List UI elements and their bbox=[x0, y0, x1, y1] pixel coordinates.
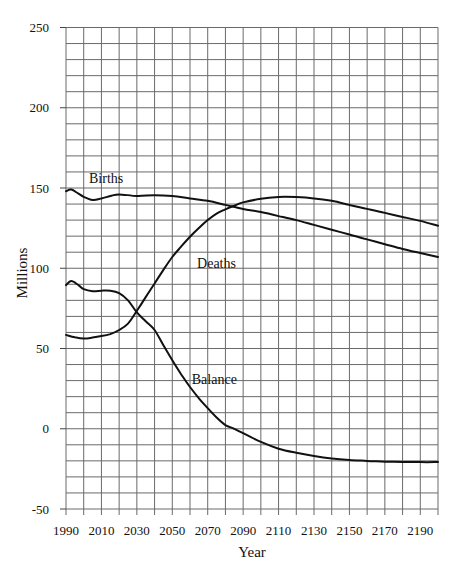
x-tick-label: 2110 bbox=[266, 523, 292, 538]
x-tick-label: 2070 bbox=[195, 523, 221, 538]
line-chart: -50050100150200250 199020102030205020702… bbox=[0, 0, 454, 567]
y-tick-label: 250 bbox=[30, 20, 50, 35]
balance-label: Balance bbox=[192, 372, 237, 387]
y-tick-label: 150 bbox=[30, 181, 50, 196]
y-axis-ticks: -50050100150200250 bbox=[30, 20, 50, 517]
x-tick-label: 2150 bbox=[336, 523, 362, 538]
y-tick-label: 100 bbox=[30, 261, 50, 276]
x-axis-ticks: 1990201020302050207020902110213021502170… bbox=[53, 523, 433, 538]
x-tick-label: 1990 bbox=[53, 523, 79, 538]
y-tick-label: 50 bbox=[36, 341, 49, 356]
births-label: Births bbox=[89, 171, 123, 186]
x-tick-label: 2030 bbox=[124, 523, 150, 538]
deaths-line bbox=[66, 197, 438, 339]
x-tick-label: 2170 bbox=[372, 523, 398, 538]
x-tick-label: 2090 bbox=[230, 523, 256, 538]
y-tick-label: 200 bbox=[30, 100, 50, 115]
y-tick-label: -50 bbox=[32, 502, 49, 517]
chart-series bbox=[66, 190, 438, 463]
deaths-label: Deaths bbox=[197, 256, 236, 271]
x-axis-title: Year bbox=[238, 544, 266, 560]
balance-line bbox=[66, 281, 438, 462]
x-tick-label: 2010 bbox=[88, 523, 114, 538]
x-tick-label: 2190 bbox=[407, 523, 433, 538]
series-labels: BirthsDeathsBalance bbox=[89, 171, 237, 387]
y-axis-title: Millions bbox=[14, 247, 30, 298]
x-tick-label: 2050 bbox=[159, 523, 185, 538]
x-tick-label: 2130 bbox=[301, 523, 327, 538]
y-tick-label: 0 bbox=[43, 421, 50, 436]
chart-grid bbox=[60, 28, 438, 516]
